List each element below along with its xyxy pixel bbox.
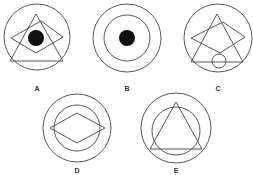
figure-e — [141, 93, 211, 163]
circle-outline — [141, 93, 211, 163]
figure-label-c: C — [215, 85, 220, 92]
triangle-outline — [150, 102, 202, 149]
circle-outline — [54, 105, 100, 151]
diamond-outline — [191, 22, 245, 53]
figure-a — [4, 4, 70, 70]
figure-label-a: A — [34, 85, 39, 92]
figure-d — [43, 94, 111, 162]
diamond-outline — [50, 113, 105, 143]
figure-b — [93, 4, 161, 72]
triangle-outline — [191, 14, 243, 62]
circle-outline — [43, 94, 111, 162]
filled-dot — [28, 30, 44, 46]
filled-dot — [119, 30, 135, 46]
circle-outline — [152, 107, 200, 155]
figure-c — [184, 4, 252, 72]
figure-label-b: B — [124, 85, 129, 92]
figure-label-e: E — [174, 167, 179, 174]
figure-label-d: D — [74, 167, 79, 174]
circle-outline — [212, 54, 226, 68]
